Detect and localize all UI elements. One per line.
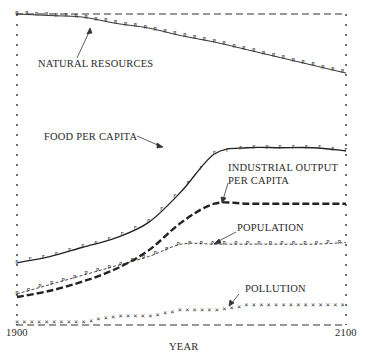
svg-text:R: R (183, 32, 187, 38)
scenario-chart: RRRRRRRRRRRRRRRRRRRRRRRRRRRRRRRRRRFFFFFF… (0, 0, 365, 360)
svg-text:×: × (296, 301, 300, 309)
svg-text:×: × (185, 306, 189, 314)
svg-text:F: F (107, 236, 110, 242)
svg-text:×: × (141, 312, 145, 320)
svg-text:F: F (239, 145, 242, 151)
svg-text:F: F (331, 146, 334, 152)
svg-text:×: × (326, 301, 330, 309)
svg-text:P: P (223, 240, 227, 246)
svg-text:R: R (223, 40, 227, 46)
svg-text:×: × (74, 318, 78, 326)
svg-text:F: F (15, 259, 18, 265)
svg-text:×: × (259, 301, 263, 309)
svg-text:R: R (252, 47, 256, 53)
svg-text:×: × (341, 301, 345, 309)
svg-text:R: R (154, 26, 158, 32)
svg-text:P: P (27, 287, 31, 293)
svg-text:×: × (52, 318, 56, 326)
x-axis-label: YEAR (169, 341, 198, 353)
svg-text:P: P (292, 240, 296, 246)
svg-text:×: × (30, 318, 34, 326)
svg-text:×: × (304, 301, 308, 309)
svg-text:×: × (59, 318, 63, 326)
svg-text:F: F (305, 144, 308, 150)
svg-text:P: P (326, 239, 330, 245)
svg-text:R: R (55, 12, 59, 18)
svg-text:F: F (265, 144, 268, 150)
svg-text:R: R (104, 17, 108, 23)
svg-text:×: × (82, 318, 86, 326)
svg-text:P: P (315, 240, 319, 246)
svg-text:P: P (257, 240, 261, 246)
svg-text:P: P (200, 240, 204, 246)
svg-text:P: P (15, 290, 19, 296)
svg-text:F: F (147, 218, 150, 224)
svg-text:F: F (173, 193, 176, 199)
svg-text:P: P (234, 240, 238, 246)
svg-text:F: F (94, 240, 97, 246)
svg-text:P: P (61, 277, 65, 283)
svg-text:P: P (246, 240, 250, 246)
svg-text:P: P (338, 239, 342, 245)
svg-text:R: R (94, 16, 98, 22)
svg-text:P: P (142, 254, 146, 260)
svg-text:R: R (163, 28, 167, 34)
svg-text:R: R (341, 68, 345, 74)
svg-text:×: × (274, 301, 278, 309)
svg-text:P: P (269, 240, 273, 246)
label-food-per-capita: FOOD PER CAPITA (44, 131, 137, 143)
label-natural-resources: NATURAL RESOURCES (38, 58, 153, 70)
svg-text:×: × (104, 314, 108, 322)
svg-text:R: R (193, 34, 197, 40)
svg-text:×: × (289, 301, 293, 309)
svg-text:R: R (331, 66, 335, 72)
svg-text:F: F (81, 243, 84, 249)
svg-text:×: × (222, 305, 226, 313)
svg-text:F: F (292, 144, 295, 150)
svg-text:×: × (178, 306, 182, 314)
svg-text:F: F (186, 180, 189, 186)
svg-text:×: × (170, 308, 174, 316)
svg-text:P: P (50, 280, 54, 286)
svg-text:×: × (333, 301, 337, 309)
svg-text:×: × (15, 318, 19, 326)
svg-text:×: × (148, 312, 152, 320)
svg-text:R: R (124, 21, 128, 27)
svg-text:×: × (163, 309, 167, 317)
svg-text:×: × (244, 301, 248, 309)
svg-text:F: F (55, 251, 58, 257)
svg-text:×: × (96, 315, 100, 323)
svg-text:F: F (29, 256, 32, 262)
svg-text:×: × (126, 312, 130, 320)
label-population: POPULATION (237, 222, 304, 234)
svg-text:P: P (96, 267, 100, 273)
svg-text:×: × (89, 317, 93, 325)
svg-text:R: R (144, 24, 148, 30)
svg-text:×: × (200, 306, 204, 314)
label-pollution: POLLUTION (245, 283, 306, 295)
label-industrial-output-per-capita: PER CAPITA (228, 175, 289, 187)
svg-text:F: F (252, 144, 255, 150)
svg-text:P: P (303, 240, 307, 246)
svg-text:×: × (45, 318, 49, 326)
svg-text:P: P (107, 264, 111, 270)
svg-text:R: R (282, 54, 286, 60)
svg-text:F: F (279, 144, 282, 150)
svg-text:R: R (114, 19, 118, 25)
svg-text:F: F (42, 254, 45, 260)
svg-text:×: × (267, 301, 271, 309)
svg-text:R: R (302, 59, 306, 65)
svg-text:×: × (111, 313, 115, 321)
svg-text:×: × (215, 306, 219, 314)
svg-text:P: P (165, 246, 169, 252)
svg-text:×: × (156, 311, 160, 319)
svg-text:F: F (213, 150, 216, 156)
svg-text:R: R (134, 22, 138, 28)
svg-text:P: P (84, 270, 88, 276)
svg-text:×: × (252, 301, 256, 309)
svg-text:×: × (119, 312, 123, 320)
svg-text:F: F (134, 225, 137, 231)
svg-text:F: F (318, 144, 321, 150)
svg-text:×: × (37, 318, 41, 326)
svg-text:×: × (207, 306, 211, 314)
